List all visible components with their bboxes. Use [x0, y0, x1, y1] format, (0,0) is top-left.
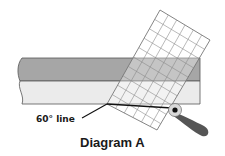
callout-label: 60° line: [36, 114, 75, 124]
rotary-cutter-icon: [169, 104, 209, 137]
callout-leader-line: [82, 104, 107, 118]
diagram-caption: Diagram A: [80, 135, 145, 150]
diagram-canvas: 60° line Diagram A: [0, 0, 225, 156]
